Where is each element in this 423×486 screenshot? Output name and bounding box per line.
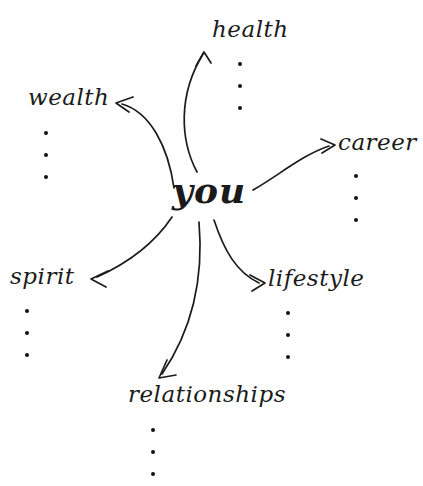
branch-label-spirit[interactable]: spirit	[10, 265, 74, 288]
arrow-to-lifestyle	[214, 220, 265, 291]
dot-icon	[44, 175, 48, 179]
arrow-to-career	[253, 139, 335, 190]
dot-column-spirit	[25, 309, 29, 357]
branch-label-career[interactable]: career	[338, 131, 417, 154]
dot-icon	[286, 355, 290, 359]
dot-column-health	[238, 62, 242, 110]
dot-icon	[25, 353, 29, 357]
dot-icon	[354, 174, 358, 178]
arrow-to-relationships	[159, 222, 200, 378]
dot-icon	[151, 428, 155, 432]
dot-icon	[286, 333, 290, 337]
dot-icon	[354, 218, 358, 222]
branch-label-wealth[interactable]: wealth	[28, 86, 109, 109]
connector-arrows-layer: .stroke-arrow { fill: none; stroke: #1b1…	[0, 0, 423, 486]
dot-icon	[151, 450, 155, 454]
dot-column-lifestyle	[286, 311, 290, 359]
dot-icon	[238, 84, 242, 88]
center-node-you[interactable]: you	[172, 172, 246, 208]
dot-icon	[151, 472, 155, 476]
arrow-to-spirit	[91, 217, 172, 287]
dot-icon	[354, 196, 358, 200]
branch-label-lifestyle[interactable]: lifestyle	[268, 267, 364, 290]
arrow-to-wealth	[116, 97, 174, 188]
dot-icon	[25, 309, 29, 313]
dot-icon	[25, 331, 29, 335]
dot-icon	[44, 153, 48, 157]
dot-column-wealth	[44, 131, 48, 179]
mind-map-diagram: .stroke-arrow { fill: none; stroke: #1b1…	[0, 0, 423, 486]
dot-icon	[286, 311, 290, 315]
branch-label-health[interactable]: health	[212, 18, 289, 41]
arrow-to-health	[184, 52, 211, 172]
dot-column-relationships	[151, 428, 155, 476]
dot-icon	[44, 131, 48, 135]
dot-icon	[238, 106, 242, 110]
dot-icon	[238, 62, 242, 66]
branch-label-relationships[interactable]: relationships	[128, 383, 286, 406]
dot-column-career	[354, 174, 358, 222]
